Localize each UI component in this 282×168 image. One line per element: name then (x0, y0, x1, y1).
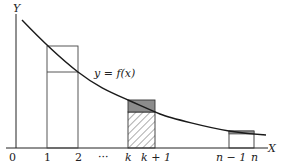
tick-0: 0 (9, 152, 16, 163)
tick-k-plus-1: k + 1 (141, 152, 171, 163)
tick-n-minus-1: n − 1 (216, 152, 246, 163)
rect-k-k1 (128, 100, 155, 148)
tick-k: k (125, 152, 132, 163)
curve-label: y = f(x) (94, 68, 135, 79)
tick-2: 2 (75, 152, 82, 163)
riemann-sum-diagram: Y X y = f(x) 0 1 2 ··· k k + 1 n − 1 n (0, 0, 282, 168)
x-axis-label: X (268, 143, 276, 154)
tick-1: 1 (44, 152, 51, 163)
tick-ellipsis: ··· (98, 152, 109, 163)
y-axis-label: Y (13, 3, 20, 14)
rect-1-2 (47, 46, 78, 148)
diagram-canvas (0, 0, 282, 168)
tick-n: n (251, 152, 258, 163)
